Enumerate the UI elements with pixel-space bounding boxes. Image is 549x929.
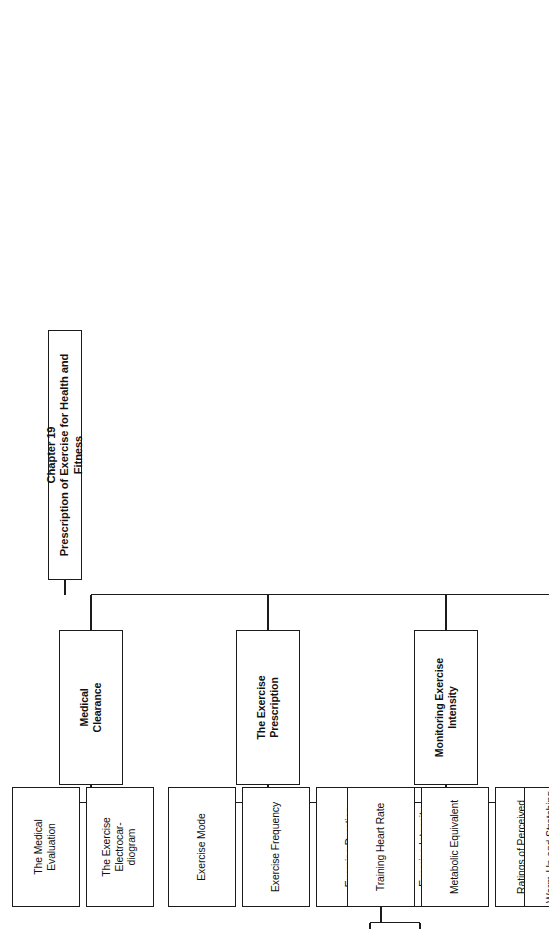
subitem-stem-monitoring-exercise-intensity-0-1 bbox=[419, 923, 420, 929]
child-node-exercise-prescription-1[interactable]: Exercise Frequency bbox=[242, 787, 310, 907]
node-label: The Exercise Prescription bbox=[255, 675, 281, 739]
tree-diagram: Chapter 19 Prescription of Exercise for … bbox=[0, 0, 549, 929]
branch-node-exercise-prescription[interactable]: The Exercise Prescription bbox=[236, 630, 300, 785]
child-node-exercise-prescription-0[interactable]: Exercise Mode bbox=[168, 787, 236, 907]
branch-stem-exercise-prescription bbox=[267, 595, 268, 630]
child-node-the-exercise-program-0[interactable]: Warm-Up and Stretching Activities bbox=[524, 787, 549, 907]
child-node-medical-clearance-1[interactable]: The Exercise Electrocar- diogram bbox=[86, 787, 154, 907]
node-label: Metabolic Equivalent bbox=[449, 800, 462, 894]
branch-node-medical-clearance[interactable]: Medical Clearance bbox=[59, 630, 123, 785]
node-label: The Medical Evaluation bbox=[33, 819, 58, 875]
node-label: Chapter 19 Prescription of Exercise for … bbox=[45, 334, 86, 576]
subitem-bus-stem-monitoring-exercise-intensity-0 bbox=[380, 907, 381, 923]
node-label: Warm-Up and Stretching Activities bbox=[545, 791, 549, 903]
branch-stem-monitoring-exercise-intensity bbox=[445, 595, 446, 630]
root-stem-line bbox=[64, 580, 65, 595]
node-label: Training Heart Rate bbox=[375, 803, 388, 891]
node-label: Monitoring Exercise Intensity bbox=[433, 658, 459, 757]
trunk-line bbox=[91, 594, 549, 595]
root-node-chapter-title: Chapter 19 Prescription of Exercise for … bbox=[48, 330, 82, 580]
child-node-monitoring-exercise-intensity-1[interactable]: Metabolic Equivalent bbox=[421, 787, 489, 907]
node-label: Exercise Mode bbox=[196, 813, 209, 880]
branch-node-monitoring-exercise-intensity[interactable]: Monitoring Exercise Intensity bbox=[414, 630, 478, 785]
subitem-bus-monitoring-exercise-intensity-0 bbox=[370, 922, 420, 923]
diagram-canvas: Chapter 19 Prescription of Exercise for … bbox=[0, 0, 549, 929]
diagram-rotation-wrapper: Chapter 19 Prescription of Exercise for … bbox=[0, 0, 549, 929]
child-node-monitoring-exercise-intensity-0[interactable]: Training Heart Rate bbox=[347, 787, 415, 907]
node-label: Medical Clearance bbox=[78, 683, 104, 733]
subitem-stem-monitoring-exercise-intensity-0-0 bbox=[369, 923, 370, 929]
child-node-medical-clearance-0[interactable]: The Medical Evaluation bbox=[12, 787, 80, 907]
node-label: The Exercise Electrocar- diogram bbox=[101, 817, 139, 876]
node-label: Exercise Frequency bbox=[270, 802, 283, 892]
branch-stem-medical-clearance bbox=[90, 595, 91, 630]
